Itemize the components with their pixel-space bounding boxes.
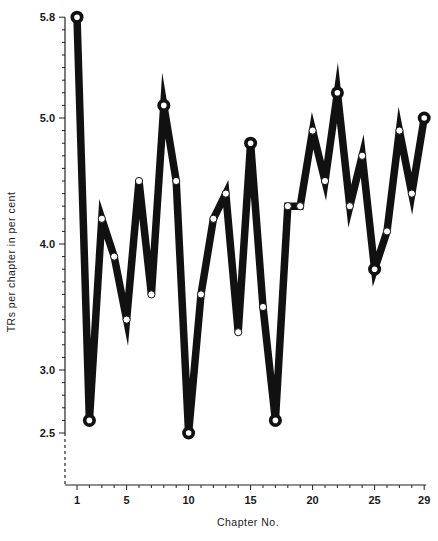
data-markers — [71, 11, 431, 440]
series-line — [77, 17, 424, 433]
data-point-marker — [210, 215, 217, 222]
data-point-marker — [148, 291, 155, 298]
y-axis-title: TRs per chapter in per cent — [5, 192, 17, 333]
data-point-marker — [346, 203, 353, 210]
y-tick-label: 4.0 — [40, 238, 55, 250]
data-point-marker — [321, 177, 328, 184]
y-tick-label: 3.0 — [40, 364, 55, 376]
x-axis-title: Chapter No. — [217, 516, 279, 528]
y-tick-label: 2.5 — [40, 427, 55, 439]
data-point-marker — [235, 329, 242, 336]
y-tick-label: 5.8 — [40, 11, 55, 23]
data-point-marker — [222, 190, 229, 197]
y-tick-label: 5.0 — [40, 112, 55, 124]
x-tick-label: 5 — [124, 494, 130, 506]
data-point-marker — [359, 152, 366, 159]
data-point-marker — [123, 316, 130, 323]
data-point-marker — [197, 291, 204, 298]
data-point-marker — [284, 203, 291, 210]
data-point-marker — [297, 203, 304, 210]
x-axis: 151015202529 — [65, 485, 430, 506]
x-tick-label: 10 — [182, 494, 194, 506]
data-point-marker — [98, 215, 105, 222]
x-tick-label: 15 — [244, 494, 256, 506]
x-tick-label: 1 — [74, 494, 80, 506]
data-point-marker — [135, 177, 142, 184]
data-point-marker — [383, 228, 390, 235]
data-point-marker — [173, 177, 180, 184]
x-tick-label: 29 — [418, 494, 430, 506]
y-axis: 2.53.04.05.05.8 — [40, 11, 65, 485]
data-point-marker — [111, 253, 118, 260]
x-tick-label: 25 — [368, 494, 380, 506]
data-point-marker — [396, 127, 403, 134]
data-point-marker — [408, 190, 415, 197]
data-point-marker — [309, 127, 316, 134]
x-tick-label: 20 — [306, 494, 318, 506]
data-point-marker — [259, 303, 266, 310]
line-chart: 2.53.04.05.05.8 151015202529 TRs per cha… — [0, 0, 438, 541]
